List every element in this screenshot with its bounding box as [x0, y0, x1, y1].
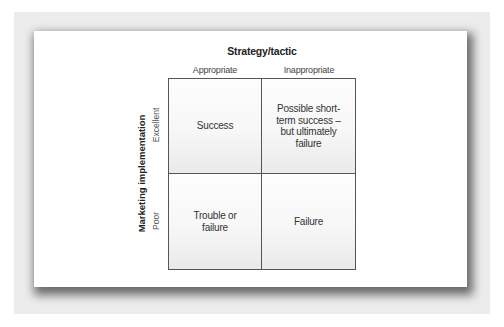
cell-text: Possible short-term success – but ultima…: [269, 103, 349, 149]
cell-text: Failure: [294, 216, 323, 228]
cell-text: Success: [197, 120, 233, 132]
column-label-inappropriate: Inappropriate: [262, 65, 356, 75]
cell-excellent-inappropriate: Possible short-term success – but ultima…: [262, 79, 355, 174]
cell-poor-inappropriate: Failure: [262, 174, 355, 269]
column-axis-title: Strategy/tactic: [168, 45, 356, 57]
row-label-poor: Poor: [151, 191, 161, 251]
row-label-excellent: Excellent: [151, 95, 161, 155]
cell-excellent-appropriate: Success: [169, 79, 262, 174]
cell-poor-appropriate: Trouble or failure: [169, 174, 262, 269]
row-axis-title: Marketing implementation: [136, 104, 147, 244]
matrix-grid: Success Possible short-term success – bu…: [168, 78, 356, 270]
cell-text: Trouble or failure: [193, 210, 237, 233]
column-label-appropriate: Appropriate: [168, 65, 262, 75]
